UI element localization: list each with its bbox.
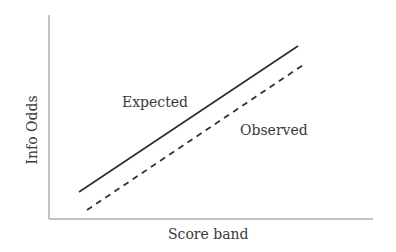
y-axis-label: Info Odds xyxy=(24,95,40,164)
expected-line xyxy=(79,46,298,192)
expected-annotation: Expected xyxy=(122,94,188,110)
x-axis-label: Score band xyxy=(168,226,249,242)
chart-canvas xyxy=(0,0,396,252)
observed-annotation: Observed xyxy=(240,122,308,138)
